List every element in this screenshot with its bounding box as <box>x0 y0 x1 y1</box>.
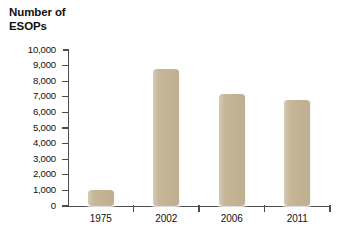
y-tick-label: 4,000 <box>2 138 56 148</box>
bar-2002 <box>153 69 179 206</box>
y-tick-mark <box>62 190 69 191</box>
x-axis-label-2006: 2006 <box>202 213 262 224</box>
y-tick-label: 0 <box>2 201 56 211</box>
y-tick-mark <box>62 65 69 66</box>
y-tick-mark <box>63 49 69 50</box>
y-tick-label: 9,000 <box>2 60 56 70</box>
y-tick-label: 5,000 <box>2 123 56 133</box>
y-tick-label: 2,000 <box>2 169 56 179</box>
y-tick-mark <box>62 96 69 97</box>
y-tick-mark <box>62 205 69 206</box>
x-tick-mark <box>329 205 330 212</box>
bar-2006 <box>219 94 245 206</box>
x-axis-label-2011: 2011 <box>267 213 327 224</box>
y-tick-label: 1,000 <box>2 185 56 195</box>
plot-area: 10,0009,0008,0007,0006,0005,0004,0003,00… <box>0 0 338 235</box>
y-tick-mark <box>62 81 69 82</box>
y-tick-label: 6,000 <box>2 107 56 117</box>
x-tick-mark <box>264 205 265 212</box>
bar-1975 <box>88 190 114 206</box>
y-tick-mark <box>62 127 69 128</box>
bar-2011 <box>284 100 310 206</box>
y-tick-label: 7,000 <box>2 91 56 101</box>
y-tick-label: 3,000 <box>2 154 56 164</box>
y-tick-label: 10,000 <box>2 45 56 55</box>
x-tick-mark <box>198 205 199 212</box>
x-axis-label-2002: 2002 <box>136 213 196 224</box>
y-tick-mark <box>62 143 69 144</box>
y-tick-mark <box>62 159 69 160</box>
y-tick-mark <box>62 174 69 175</box>
x-tick-mark <box>133 205 134 212</box>
y-tick-label: 8,000 <box>2 76 56 86</box>
bar-chart: Number of ESOPs 10,0009,0008,0007,0006,0… <box>0 0 338 235</box>
x-axis-label-1975: 1975 <box>71 213 131 224</box>
y-tick-mark <box>62 112 69 113</box>
